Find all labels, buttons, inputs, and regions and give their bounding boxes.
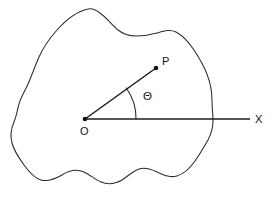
polar-coordinate-diagram: O P X Θ [0, 0, 274, 199]
closed-region-boundary [11, 9, 213, 184]
point-p-dot [154, 66, 159, 71]
origin-label: O [80, 125, 89, 137]
angle-arc [126, 88, 136, 119]
angle-theta-label: Θ [143, 90, 152, 102]
origin-dot [83, 117, 88, 122]
point-p-label: P [162, 55, 169, 67]
diagram-canvas: O P X Θ [0, 0, 274, 199]
x-axis-label: X [255, 113, 263, 125]
